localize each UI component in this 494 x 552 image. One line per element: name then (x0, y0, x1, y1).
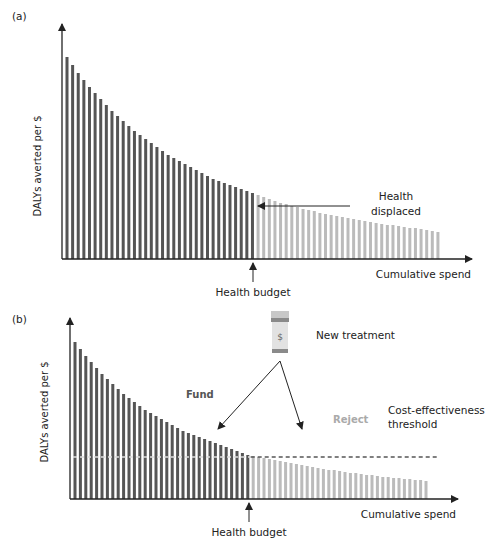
bar (391, 225, 394, 259)
bar (347, 218, 350, 259)
bar (327, 470, 330, 499)
bar (279, 461, 282, 499)
bar (234, 187, 237, 259)
bar (403, 227, 406, 259)
bar (311, 467, 314, 499)
bar (95, 368, 98, 499)
bar (71, 65, 74, 259)
bar (122, 394, 125, 499)
bar (375, 223, 378, 259)
bar (77, 73, 80, 259)
bar (371, 475, 374, 499)
bar (117, 389, 120, 499)
bar (106, 379, 109, 499)
bar (128, 398, 131, 499)
bar (122, 121, 125, 259)
bar (66, 57, 69, 259)
panel-a-label: (a) (12, 10, 27, 22)
bar (381, 477, 384, 499)
bar (240, 189, 243, 259)
bar (290, 463, 293, 499)
bar (116, 116, 119, 259)
bar (420, 229, 423, 259)
panel-a-bars (66, 57, 440, 259)
bar (144, 410, 147, 499)
bar (189, 167, 192, 259)
bar (195, 170, 198, 259)
bar (257, 457, 260, 499)
bar (358, 220, 361, 259)
threshold-label-line2: threshold (388, 418, 437, 430)
panel-b-bars (74, 342, 428, 499)
bar (392, 478, 395, 499)
bar (285, 204, 288, 259)
bar (344, 472, 347, 499)
bar (172, 158, 175, 259)
bar (268, 459, 271, 499)
bar (236, 451, 239, 499)
bar (306, 466, 309, 499)
bar (273, 201, 276, 259)
bar (322, 469, 325, 499)
bar (90, 362, 93, 499)
bar (198, 437, 201, 499)
bar (425, 481, 428, 499)
bar (105, 105, 108, 259)
new-treatment-label: New treatment (316, 329, 395, 341)
bar (436, 232, 439, 259)
bar (74, 342, 77, 499)
bar (284, 462, 287, 499)
bar (333, 470, 336, 499)
bar (365, 475, 368, 499)
bar (349, 473, 352, 499)
bar (335, 216, 338, 259)
bar (209, 441, 212, 499)
bar (149, 413, 152, 499)
bar (214, 443, 217, 499)
bar (363, 221, 366, 259)
panel-b-budget-label: Health budget (211, 526, 286, 538)
bar (376, 476, 379, 499)
bar (408, 228, 411, 259)
bar (252, 456, 255, 499)
bar (219, 445, 222, 499)
bar (94, 93, 97, 259)
bar (127, 126, 130, 259)
bar (167, 155, 170, 259)
panel-a-y-axis-label: DALYs averted per $ (32, 115, 43, 216)
fund-arrow-icon (218, 361, 280, 429)
bar (203, 439, 206, 499)
bar (111, 384, 114, 499)
bar (300, 465, 303, 499)
bar (200, 173, 203, 259)
bar (133, 131, 136, 259)
reject-label: Reject (333, 414, 369, 425)
bar (139, 135, 142, 259)
panel-a-x-axis-label: Cumulative spend (376, 268, 471, 280)
figure: (a) DALYs averted per $ Cumulative spend… (0, 0, 494, 552)
bar (387, 477, 390, 499)
bar (273, 460, 276, 499)
bar (88, 87, 91, 259)
bar (408, 479, 411, 499)
bar (341, 217, 344, 259)
displaced-label-line1: Health (379, 190, 413, 202)
bar (352, 219, 355, 259)
bar (263, 458, 266, 499)
bar (184, 164, 187, 259)
bar (206, 176, 209, 259)
bar (225, 447, 228, 499)
panel-b: (b) DALYs averted per $ Cumulative spend… (12, 311, 485, 538)
bar (295, 464, 298, 499)
bar (296, 207, 299, 259)
bar (155, 147, 158, 259)
bar (290, 206, 293, 259)
bar (161, 151, 164, 259)
bar (414, 228, 417, 259)
bar (380, 224, 383, 259)
bar (245, 191, 248, 259)
bar (84, 356, 87, 499)
bar (317, 468, 320, 499)
bar (268, 199, 271, 259)
bar (82, 80, 85, 259)
